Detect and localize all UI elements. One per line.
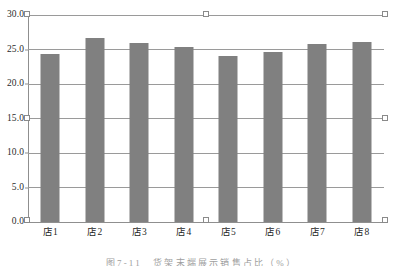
bar[interactable] <box>41 54 60 222</box>
x-axis-tick-label: 店3 <box>132 228 147 238</box>
bar[interactable] <box>174 47 193 222</box>
bar[interactable] <box>130 43 149 222</box>
bar[interactable] <box>219 56 238 222</box>
y-axis-tick-label: 15.0 <box>7 114 24 124</box>
figure-caption: 图7-11 货架末端展示销售占比（%） <box>0 256 403 266</box>
bar[interactable] <box>308 44 327 222</box>
bar[interactable] <box>352 42 371 222</box>
x-axis-tick-label: 店1 <box>43 228 58 238</box>
plot-area: 0.05.010.015.020.025.030.0 店1店2店3店4店5店6店… <box>28 15 384 222</box>
bar-series <box>28 15 384 222</box>
y-axis-tick-label: 30.0 <box>7 10 24 20</box>
x-axis-tick-label: 店4 <box>176 228 191 238</box>
x-axis-tick-label: 店8 <box>354 228 369 238</box>
x-axis-tick-label: 店7 <box>310 228 325 238</box>
y-axis-tick-label: 25.0 <box>7 45 24 55</box>
y-axis-tick-label: 5.0 <box>12 183 24 193</box>
bar[interactable] <box>85 38 104 222</box>
y-axis-tick-label: 20.0 <box>7 79 24 89</box>
x-axis-tick-label: 店2 <box>87 228 102 238</box>
x-axis-tick-label: 店5 <box>221 228 236 238</box>
chart-figure[interactable]: 0.05.010.015.020.025.030.0 店1店2店3店4店5店6店… <box>0 0 403 266</box>
bar[interactable] <box>263 52 282 222</box>
y-axis-tick-label: 0.0 <box>12 217 24 227</box>
x-axis-tick-label: 店6 <box>265 228 280 238</box>
y-axis-tick-label: 10.0 <box>7 148 24 158</box>
